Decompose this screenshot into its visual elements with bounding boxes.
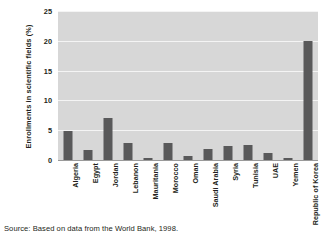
bar-slot (278, 11, 298, 160)
bar-slot (78, 11, 98, 160)
bar (84, 150, 93, 160)
x-axis-category-labels: AlgeriaEgyptJordanLebanonMauritaniaMoroc… (58, 160, 318, 218)
chart-figure: Enrollments in scientific fields (%) 252… (0, 0, 324, 245)
y-axis-tick-label: 20 (32, 37, 52, 46)
category-slot: UAE (258, 160, 278, 218)
bar-slot (58, 11, 78, 160)
category-slot: Egypt (78, 160, 98, 218)
bar-slot (158, 11, 178, 160)
category-slot: Jordan (98, 160, 118, 218)
y-axis-tick-label: 5 (32, 126, 52, 135)
bar-slot (98, 11, 118, 160)
bar (304, 41, 313, 160)
bar-slot (218, 11, 238, 160)
bar (224, 146, 233, 160)
category-slot: Lebanon (118, 160, 138, 218)
bar (104, 118, 113, 160)
y-axis-title: Enrollments in scientific fields (%) (24, 7, 33, 167)
category-slot: Syria (218, 160, 238, 218)
category-slot: Tunisia (238, 160, 258, 218)
bar-slot (238, 11, 258, 160)
bar-slot (178, 11, 198, 160)
bar-slot (118, 11, 138, 160)
bar (204, 149, 213, 160)
bar (124, 143, 133, 160)
bar-slot (258, 11, 278, 160)
category-slot: Morocco (158, 160, 178, 218)
source-note: Source: Based on data from the World Ban… (4, 224, 178, 233)
bar-slot (198, 11, 218, 160)
bar-slot (138, 11, 158, 160)
bar-slot (298, 11, 318, 160)
y-axis-tick-label: 15 (32, 67, 52, 76)
category-slot: Republic of Korea (298, 160, 318, 218)
y-axis-tick-label: 25 (32, 7, 52, 16)
y-axis-tick-label: 10 (32, 96, 52, 105)
bar (164, 143, 173, 160)
category-slot: Mauritania (138, 160, 158, 218)
bar (244, 145, 253, 160)
category-slot: Algeria (58, 160, 78, 218)
category-label: Republic of Korea (311, 163, 320, 225)
bar-series (58, 11, 318, 160)
category-slot: Oman (178, 160, 198, 218)
bar (64, 131, 73, 160)
y-axis-tick-label: 0 (32, 156, 52, 165)
category-slot: Saudi Arabia (198, 160, 218, 218)
category-slot: Yemen (278, 160, 298, 218)
